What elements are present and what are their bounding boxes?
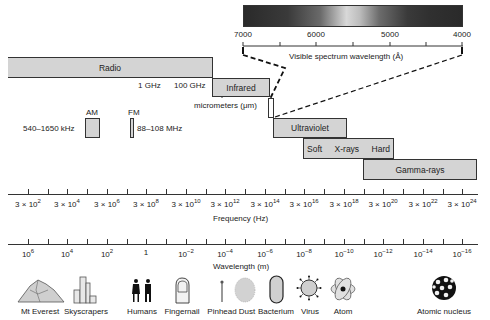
atom-icon bbox=[331, 276, 355, 303]
object-label: Pinhead bbox=[207, 307, 236, 316]
object-label: Mt Everest bbox=[21, 307, 59, 316]
dust-icon bbox=[235, 278, 255, 302]
object-label: Fingernail bbox=[164, 307, 199, 316]
nucleus-icon bbox=[432, 276, 456, 300]
object-label: Virus bbox=[301, 307, 319, 316]
object-label: Skyscrapers bbox=[64, 307, 108, 316]
mountain-icon bbox=[18, 280, 64, 302]
fingernail-icon bbox=[176, 278, 189, 303]
object-label: Bacterium bbox=[258, 307, 294, 316]
skyscraper-icon bbox=[74, 277, 96, 303]
humans-icon bbox=[132, 279, 151, 302]
bacterium-icon bbox=[270, 276, 283, 303]
object-label: Dust bbox=[239, 307, 255, 316]
object-icons bbox=[0, 0, 490, 320]
pinhead-icon bbox=[220, 280, 223, 302]
object-label: Atomic nucleus bbox=[417, 307, 471, 316]
object-label: Humans bbox=[127, 307, 157, 316]
virus-icon bbox=[297, 276, 322, 301]
object-label: Atom bbox=[334, 307, 353, 316]
